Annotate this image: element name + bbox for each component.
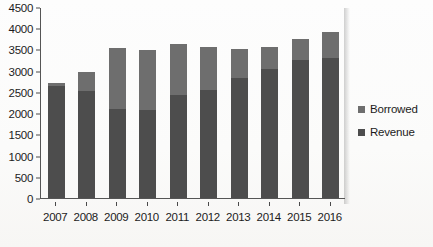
bar-segment-revenue xyxy=(170,95,187,198)
legend-swatch-icon xyxy=(358,106,365,113)
bar-segment-revenue xyxy=(109,109,126,198)
x-tick-label-2008: 2008 xyxy=(74,211,98,223)
legend-label: Borrowed xyxy=(370,103,418,115)
y-tick-label: 4000 xyxy=(9,23,33,35)
bars-layer xyxy=(41,8,345,198)
y-tick-label: 2500 xyxy=(9,87,33,99)
legend-label: Revenue xyxy=(370,126,415,138)
x-tick-mark xyxy=(238,202,239,206)
legend-item-borrowed[interactable]: Borrowed xyxy=(358,103,433,115)
legend-item-revenue[interactable]: Revenue xyxy=(358,126,433,138)
bar-2012 xyxy=(200,47,217,198)
x-tick-label-2009: 2009 xyxy=(104,211,128,223)
bar-segment-borrowed xyxy=(261,47,278,69)
x-tick-mark xyxy=(299,202,300,206)
y-tick-label: 500 xyxy=(15,172,33,184)
bar-segment-borrowed xyxy=(292,39,309,60)
x-tick-mark xyxy=(330,202,331,206)
y-tick-label: 1500 xyxy=(9,129,33,141)
bar-segment-revenue xyxy=(200,90,217,198)
bar-2007 xyxy=(48,83,65,198)
x-tick-mark xyxy=(177,202,178,206)
bar-2011 xyxy=(170,44,187,198)
bar-segment-revenue xyxy=(292,60,309,198)
x-tick-mark xyxy=(116,202,117,206)
bar-2010 xyxy=(139,50,156,198)
y-axis: 050010001500200025003000350040004500 xyxy=(0,0,40,247)
y-tick-label: 4500 xyxy=(9,2,33,14)
bar-segment-borrowed xyxy=(200,47,217,90)
bar-2009 xyxy=(109,48,126,198)
bar-segment-borrowed xyxy=(170,44,187,95)
x-tick-label-2015: 2015 xyxy=(287,211,311,223)
bar-2014 xyxy=(261,47,278,198)
y-tick-label: 0 xyxy=(27,193,33,205)
x-tick-label-2016: 2016 xyxy=(318,211,342,223)
bar-segment-borrowed xyxy=(109,48,126,109)
x-tick-label-2007: 2007 xyxy=(43,211,67,223)
bar-2016 xyxy=(322,32,339,198)
bar-chart: 050010001500200025003000350040004500 200… xyxy=(0,0,433,247)
bar-segment-borrowed xyxy=(139,50,156,109)
y-tick-label: 3500 xyxy=(9,44,33,56)
x-axis: 2007200820092010201120122013201420152016 xyxy=(40,202,345,226)
x-tick-label-2012: 2012 xyxy=(196,211,220,223)
bar-2015 xyxy=(292,39,309,198)
bar-segment-revenue xyxy=(261,69,278,198)
x-tick-mark xyxy=(86,202,87,206)
y-tick-label: 1000 xyxy=(9,151,33,163)
plot-area xyxy=(40,8,345,199)
bar-2013 xyxy=(231,49,248,198)
chart-legend: BorrowedRevenue xyxy=(358,103,433,149)
legend-swatch-icon xyxy=(358,129,365,136)
x-tick-mark xyxy=(55,202,56,206)
bar-segment-revenue xyxy=(139,110,156,198)
x-tick-mark xyxy=(208,202,209,206)
y-tick-label: 2000 xyxy=(9,108,33,120)
y-tick-label: 3000 xyxy=(9,66,33,78)
bar-segment-borrowed xyxy=(322,32,339,57)
bar-segment-revenue xyxy=(322,58,339,198)
x-tick-mark xyxy=(147,202,148,206)
bar-segment-revenue xyxy=(78,91,95,198)
bar-segment-borrowed xyxy=(78,72,95,92)
bar-segment-revenue xyxy=(231,78,248,198)
x-tick-mark xyxy=(269,202,270,206)
bar-segment-revenue xyxy=(48,86,65,198)
x-tick-label-2011: 2011 xyxy=(165,211,189,223)
bar-2008 xyxy=(78,72,95,198)
x-tick-label-2010: 2010 xyxy=(135,211,159,223)
bar-segment-borrowed xyxy=(231,49,248,78)
x-tick-label-2014: 2014 xyxy=(257,211,281,223)
x-tick-label-2013: 2013 xyxy=(226,211,250,223)
